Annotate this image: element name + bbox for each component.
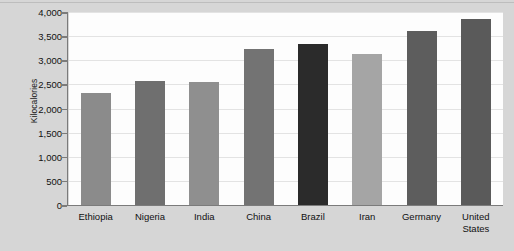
y-tick-label: 1,500 bbox=[18, 127, 62, 138]
x-tick-label: Brazil bbox=[286, 211, 340, 223]
bar-slot bbox=[286, 12, 340, 205]
x-tick-label-line: Germany bbox=[394, 211, 448, 223]
bars-container bbox=[69, 12, 504, 205]
bar-nigeria[interactable] bbox=[135, 81, 165, 205]
x-tick-label-line: India bbox=[177, 211, 231, 223]
bar-united-states[interactable] bbox=[461, 19, 491, 205]
bar-china[interactable] bbox=[244, 49, 274, 205]
bar-slot bbox=[231, 12, 285, 205]
x-tick-label-line: Ethiopia bbox=[69, 211, 123, 223]
x-tick-label: China bbox=[231, 211, 285, 223]
y-tick-label: 1,000 bbox=[18, 151, 62, 162]
y-tick-label: 3,000 bbox=[18, 55, 62, 66]
x-tick-label: Germany bbox=[394, 211, 448, 223]
x-tick-label-line: United bbox=[449, 211, 503, 223]
y-tick-label: 3,500 bbox=[18, 31, 62, 42]
y-axis-tick-labels: 05001,0001,5002,0002,5003,0003,5004,000 bbox=[18, 14, 62, 207]
x-tick-label: Ethiopia bbox=[69, 211, 123, 223]
x-tick-label: UnitedStates bbox=[449, 211, 503, 234]
x-tick-label-line: Iran bbox=[340, 211, 394, 223]
y-tick-label: 0 bbox=[18, 200, 62, 211]
x-tick-label: Nigeria bbox=[123, 211, 177, 223]
bar-germany[interactable] bbox=[407, 31, 437, 205]
x-tick-label-line: China bbox=[231, 211, 285, 223]
y-tick-label: 500 bbox=[18, 175, 62, 186]
bar-india[interactable] bbox=[189, 82, 219, 205]
y-tick-label: 2,500 bbox=[18, 79, 62, 90]
y-tick-label: 4,000 bbox=[18, 7, 62, 18]
x-tick-label: India bbox=[177, 211, 231, 223]
bar-slot bbox=[69, 12, 123, 205]
bar-slot bbox=[449, 12, 503, 205]
x-tick-label-line: Nigeria bbox=[123, 211, 177, 223]
bar-brazil[interactable] bbox=[298, 44, 328, 205]
x-tick-label-line: Brazil bbox=[286, 211, 340, 223]
x-tick-label: Iran bbox=[340, 211, 394, 223]
x-tick-label-line: States bbox=[449, 223, 503, 235]
y-tick-label: 2,000 bbox=[18, 103, 62, 114]
bar-slot bbox=[394, 12, 448, 205]
bar-iran[interactable] bbox=[352, 54, 382, 206]
bar-slot bbox=[177, 12, 231, 205]
bar-chart-figure: Kilocalories 05001,0001,5002,0002,5003,0… bbox=[0, 0, 514, 251]
bar-slot bbox=[123, 12, 177, 205]
x-axis-tick-labels: EthiopiaNigeriaIndiaChinaBrazilIranGerma… bbox=[69, 211, 504, 249]
bar-slot bbox=[340, 12, 394, 205]
bar-ethiopia[interactable] bbox=[81, 93, 111, 205]
